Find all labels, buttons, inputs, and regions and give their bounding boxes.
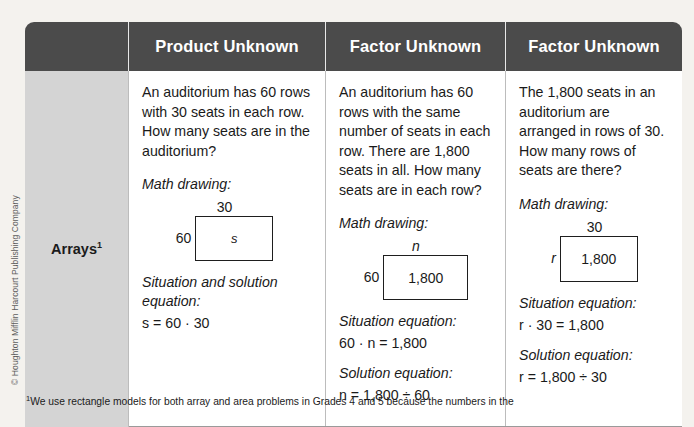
row-label-cell: Arrays1 bbox=[25, 71, 129, 427]
equation-situation: r · 30 = 1,800 bbox=[519, 316, 670, 335]
cell-product-unknown: An auditorium has 60 rows with 30 seats … bbox=[129, 71, 326, 427]
footnote: 1We use rectangle models for both array … bbox=[26, 392, 514, 408]
drawing-top-label: n bbox=[412, 239, 420, 254]
drawing-top-label: 30 bbox=[587, 220, 603, 235]
equation-heading-solution: Solution equation: bbox=[339, 364, 493, 383]
copyright-notice: © Houghton Mifflin Harcourt Publishing C… bbox=[10, 145, 20, 385]
cell-factor-unknown-2: The 1,800 seats in an auditorium are arr… bbox=[506, 71, 683, 427]
equation-heading-solution: Solution equation: bbox=[519, 346, 670, 365]
equation-heading-situation-solution: Situation and solution equation: bbox=[142, 273, 313, 311]
math-drawing-heading: Math drawing: bbox=[519, 195, 670, 214]
drawing-rectangle: 1,800 bbox=[383, 255, 468, 300]
equation-solution: r = 1,800 ÷ 30 bbox=[519, 368, 670, 387]
row-label-word: Arrays bbox=[51, 241, 97, 257]
problem-statement: An auditorium has 60 rows with the same … bbox=[339, 83, 493, 200]
row-label-footnote-marker: 1 bbox=[97, 240, 102, 250]
drawing-side-label: r bbox=[551, 251, 556, 266]
drawing-box-row: 60 1,800 bbox=[364, 255, 469, 300]
drawing-rectangle: 1,800 bbox=[560, 236, 638, 282]
drawing-box-row: 60 s bbox=[176, 216, 274, 261]
header-corner-cell bbox=[25, 22, 129, 71]
problem-statement: An auditorium has 60 rows with 30 seats … bbox=[142, 83, 313, 161]
header-product-unknown: Product Unknown bbox=[129, 22, 326, 71]
math-drawing: n 60 1,800 bbox=[339, 239, 493, 300]
drawing-box-row: r 1,800 bbox=[551, 236, 638, 282]
comparison-table-wrapper: Product Unknown Factor Unknown Factor Un… bbox=[25, 22, 671, 427]
cell-factor-unknown-1: An auditorium has 60 rows with the same … bbox=[326, 71, 506, 427]
math-drawing-heading: Math drawing: bbox=[339, 214, 493, 233]
math-drawing: 30 r 1,800 bbox=[519, 220, 670, 282]
header-factor-unknown-2: Factor Unknown bbox=[506, 22, 683, 71]
drawing-top-label: 30 bbox=[217, 200, 233, 215]
row-label-text: Arrays1 bbox=[51, 241, 102, 257]
equation-situation-solution: s = 60 · 30 bbox=[142, 314, 313, 333]
problem-statement: The 1,800 seats in an auditorium are arr… bbox=[519, 83, 670, 181]
math-drawing: 30 60 s bbox=[142, 200, 313, 261]
table-row: Arrays1 An auditorium has 60 rows with 3… bbox=[25, 71, 682, 427]
equation-heading-situation: Situation equation: bbox=[519, 294, 670, 313]
footnote-text: We use rectangle models for both array a… bbox=[30, 396, 513, 407]
problem-type-table: Product Unknown Factor Unknown Factor Un… bbox=[25, 22, 682, 427]
header-factor-unknown-1: Factor Unknown bbox=[326, 22, 506, 71]
drawing-side-label: 60 bbox=[364, 270, 380, 285]
drawing-side-label: 60 bbox=[176, 231, 192, 246]
equation-situation: 60 · n = 1,800 bbox=[339, 334, 493, 353]
math-drawing-heading: Math drawing: bbox=[142, 175, 313, 194]
drawing-rectangle: s bbox=[195, 216, 273, 261]
table-header-row: Product Unknown Factor Unknown Factor Un… bbox=[25, 22, 682, 71]
equation-heading-situation: Situation equation: bbox=[339, 312, 493, 331]
